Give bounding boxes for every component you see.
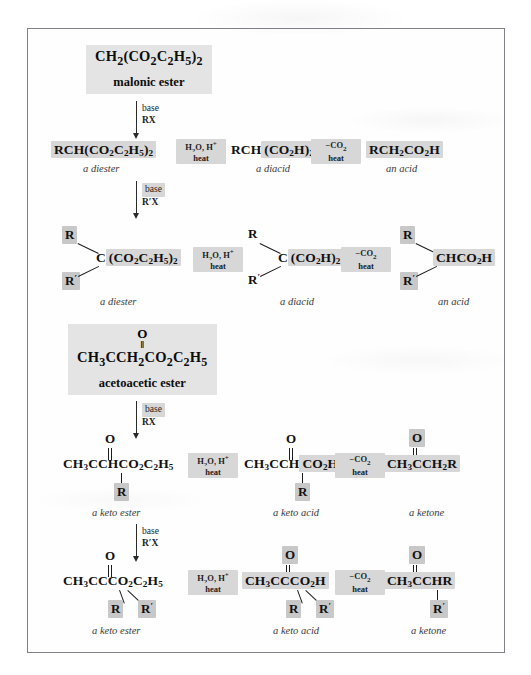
malonic-ester-header: CH2(CO2C2H5)2 malonic ester: [86, 45, 212, 94]
vertical-arrow-acetoacetic-mono: [136, 401, 137, 435]
row2-step3-r-top: R: [400, 226, 415, 244]
row1-step3-formula: RCH2CO2H: [366, 142, 443, 158]
page-frame: CH2(CO2C2H5)2 malonic ester base RX RCH(…: [27, 28, 505, 653]
row3-step1-caption: a keto ester: [92, 507, 140, 518]
vertical-arrow-malonic-di: [136, 181, 137, 215]
row4-step1-caption: a keto ester: [92, 625, 140, 636]
reaction-scheme: CH2(CO2C2H5)2 malonic ester base RX RCH(…: [28, 29, 504, 652]
row2-step3-r-bottom: R′: [400, 272, 418, 290]
row3-step2-oxygen: O: [286, 431, 296, 447]
row3-step1-oxygen: O: [105, 431, 115, 447]
vertical-arrow-label-acetoacetic-mono: base RX: [142, 403, 165, 429]
row4-step2-caption: a keto acid: [273, 625, 319, 636]
row4-step1-r-left: R: [108, 600, 123, 618]
row4-step2-formula: CH3CCCO2H: [242, 573, 329, 589]
row2-step2-bond-bottom: [260, 266, 281, 277]
row3-step2-formula: CH3CCHCO2H: [244, 456, 341, 472]
row4-step3-r-group: R′: [430, 600, 448, 618]
vertical-arrow-line2: RX: [142, 417, 165, 429]
row4-step1-formula: CH3CCCO2C2H5: [63, 573, 163, 589]
row2-step2-r-top: R: [248, 226, 257, 242]
row3-step1-r-group: R: [114, 483, 129, 501]
row2-step2-r-bottom: R′: [248, 272, 260, 288]
row4-step2-r-right: R′: [316, 600, 334, 618]
row3-step2-r-group: R: [295, 483, 310, 501]
row2-arrow2-bottom-label: heat: [341, 260, 391, 272]
row2-arrow1-bottom-label: heat: [193, 260, 243, 272]
vertical-arrow-malonic-mono: [136, 101, 137, 135]
row3-arrow2-bottom-label: heat: [335, 466, 385, 478]
row4-step3-caption: a ketone: [411, 625, 446, 636]
row1-arrow1-bottom-label: heat: [176, 152, 226, 164]
row2-step1-bond-bottom: [78, 266, 99, 277]
row2-step2-formula: C(CO2H)2: [278, 250, 343, 266]
vertical-arrow-line1: base: [142, 103, 159, 115]
row2-step2-caption: a diacid: [280, 296, 314, 307]
vertical-arrow-head-malonic-mono: [133, 133, 139, 139]
row2-step1-formula: C(CO2C2H5)2: [96, 250, 181, 266]
row3-arrow1-bottom-label: heat: [188, 466, 238, 478]
row4-step3-oxygen: O: [409, 546, 425, 564]
row4-step3-formula: CH3CCHR: [384, 573, 455, 589]
row2-step3-bond-bottom: [416, 266, 437, 277]
row4-step2-r-left: R: [286, 600, 301, 618]
vertical-arrow-line2: R′X: [142, 538, 159, 550]
row3-step1-formula: CH3CCHCO2C2H5: [63, 456, 173, 472]
row3-step3-caption: a ketone: [409, 507, 444, 518]
row1-step1-caption: a diester: [83, 163, 119, 174]
vertical-arrow-label-malonic-mono: base RX: [142, 103, 159, 127]
row2-step3-formula: CHCO2H: [433, 250, 495, 266]
vertical-arrow-line2: RX: [142, 115, 159, 127]
row3-step3-formula: CH3CCH2R: [384, 456, 460, 472]
acetoacetic-ester-formula: CH3CCH2CO2C2H5: [77, 349, 208, 370]
row1-step3-caption: an acid: [386, 163, 417, 174]
row4-arrow1-bottom-label: heat: [188, 583, 238, 595]
row1-step1-formula: RCH(CO2C2H5)2: [51, 142, 156, 158]
row1-arrow2-bottom-label: heat: [311, 152, 361, 164]
row4-step2-oxygen: O: [282, 546, 298, 564]
acetoacetic-ester-header: O ‖ CH3CCH2CO2C2H5 acetoacetic ester: [68, 324, 217, 395]
row3-step2-caption: a keto acid: [273, 507, 319, 518]
vertical-arrow-line1: base: [142, 183, 165, 197]
row4-arrow2-bottom-label: heat: [335, 583, 385, 595]
row2-step1-r-bottom: R′: [62, 272, 80, 290]
row4-step1-r-right: R′: [138, 600, 156, 618]
acetoacetic-double-bond: ‖: [77, 340, 208, 348]
vertical-arrow-head-acetoacetic-mono: [133, 433, 139, 439]
row3-step3-oxygen: O: [409, 429, 425, 447]
row1-step2-caption: a diacid: [256, 163, 290, 174]
vertical-arrow-head-malonic-di: [133, 213, 139, 219]
vertical-arrow-label-acetoacetic-di: base R′X: [142, 526, 159, 550]
row1-step2-formula: RCH(CO2H)2: [231, 142, 317, 158]
vertical-arrow-head-acetoacetic-di: [133, 556, 139, 562]
vertical-arrow-acetoacetic-di: [136, 524, 137, 558]
vertical-arrow-line1: base: [142, 526, 159, 538]
acetoacetic-ester-name: acetoacetic ester: [77, 376, 208, 391]
row2-step1-r-top: R: [62, 226, 77, 244]
vertical-arrow-line2: R′X: [142, 197, 165, 209]
row2-step3-caption: an acid: [438, 296, 469, 307]
vertical-arrow-label-malonic-di: base R′X: [142, 183, 165, 209]
malonic-ester-name: malonic ester: [95, 75, 203, 90]
row4-step1-oxygen: O: [105, 548, 115, 564]
row2-step1-caption: a diester: [100, 296, 136, 307]
malonic-ester-formula: CH2(CO2C2H5)2: [95, 48, 203, 69]
vertical-arrow-line1: base: [142, 403, 165, 417]
